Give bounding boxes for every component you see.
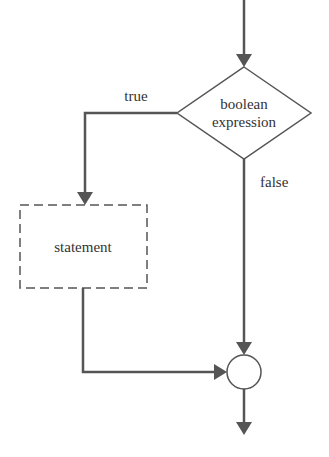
merge-connector [227, 355, 261, 389]
exit-arrowhead [236, 422, 252, 435]
statement-exit-arrowhead [214, 364, 227, 380]
true-branch-line [85, 113, 177, 192]
true-branch-arrowhead [77, 192, 93, 205]
true-label: true [124, 88, 148, 104]
false-label: false [260, 174, 289, 190]
condition-line1: boolean [220, 96, 268, 112]
false-branch-arrowhead [236, 342, 252, 355]
entry-arrowhead [236, 54, 252, 67]
decision-diamond [177, 67, 311, 159]
statement-label: statement [54, 239, 112, 255]
statement-exit-line [83, 288, 215, 372]
flowchart: boolean expression true statement false [0, 0, 329, 457]
condition-line2: expression [212, 114, 277, 130]
